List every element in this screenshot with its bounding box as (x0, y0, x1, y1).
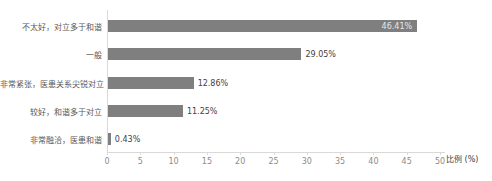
x-tick-mark (174, 152, 175, 155)
x-tick-mark (207, 152, 208, 155)
bar (108, 77, 194, 89)
x-tick-label: 35 (335, 157, 345, 166)
value-label: 46.41% (364, 22, 412, 31)
x-tick-mark (307, 152, 308, 155)
x-tick-mark (373, 152, 374, 155)
x-tick-label: 15 (202, 157, 212, 166)
x-tick-label: 0 (104, 157, 109, 166)
x-axis-label: 比例 (%) (446, 153, 478, 164)
x-tick-label: 40 (368, 157, 378, 166)
x-tick-mark (440, 152, 441, 155)
value-label: 11.25% (187, 106, 218, 115)
x-tick-mark (240, 152, 241, 155)
value-label: 12.86% (198, 78, 229, 87)
x-tick-mark (407, 152, 408, 155)
value-label: 0.43% (115, 135, 140, 144)
x-tick-label: 45 (402, 157, 412, 166)
bar-chart: 05101520253035404550不太好，对立多于和谐46.41%一般29… (0, 0, 492, 181)
category-label: 非常融洽，医患和谐 (0, 134, 102, 145)
x-tick-label: 50 (435, 157, 445, 166)
x-tick-mark (140, 152, 141, 155)
x-tick-label: 5 (138, 157, 143, 166)
bar (108, 105, 183, 117)
category-label: 一般 (0, 49, 102, 60)
x-tick-mark (274, 152, 275, 155)
plot-area: 05101520253035404550不太好，对立多于和谐46.41%一般29… (0, 0, 492, 181)
category-label: 非常紧张，医患关系尖锐对立 (0, 77, 102, 88)
x-tick-label: 25 (268, 157, 278, 166)
bar (108, 48, 301, 60)
category-label: 较好，和谐多于对立 (0, 105, 102, 116)
x-tick-label: 30 (302, 157, 312, 166)
value-label: 29.05% (305, 50, 336, 59)
x-tick-mark (107, 152, 108, 155)
category-label: 不太好，对立多于和谐 (0, 21, 102, 32)
bar (108, 133, 111, 145)
x-tick-label: 10 (169, 157, 179, 166)
x-tick-label: 20 (235, 157, 245, 166)
x-axis-line (107, 152, 445, 153)
x-tick-mark (340, 152, 341, 155)
